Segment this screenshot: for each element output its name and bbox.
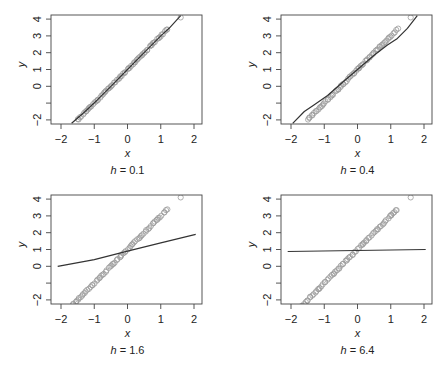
panel-caption: h = 0.1 [111,164,145,176]
panel-h-0-1: −2−1012x−201234yh = 0.1 [0,0,223,182]
plot-svg: −2−1012x−201234yh = 6.4 [230,180,446,362]
x-axis-label: x [354,327,361,339]
x-tick-label: −2 [55,133,68,145]
x-tick-label: 2 [421,133,427,145]
x-tick-label: 1 [388,313,394,325]
x-tick-label: −1 [88,133,101,145]
y-axis-label: y [15,240,27,248]
x-tick-label: 1 [388,133,394,145]
y-axis: −201234 [31,16,51,126]
x-tick-label: 2 [421,313,427,325]
x-axis: −2−1012 [285,304,427,325]
y-tick-label: 1 [261,66,273,72]
y-tick-label: 4 [261,16,273,22]
y-axis: −201234 [31,196,51,306]
panel-caption: h = 0.4 [341,164,375,176]
y-tick-label: −2 [261,294,273,307]
y-tick-label: 3 [261,33,273,39]
x-axis-label: x [124,327,131,339]
x-tick-label: 0 [354,133,360,145]
x-axis: −2−1012 [55,124,197,145]
x-tick-label: −2 [285,313,298,325]
x-tick-label: 1 [158,313,164,325]
y-tick-label: 0 [31,263,43,269]
x-tick-label: 2 [191,313,197,325]
y-axis: −201234 [261,196,281,306]
y-tick-label: 1 [31,66,43,72]
y-tick-label: −2 [31,294,43,307]
panel-h-6-4: −2−1012x−201234yh = 6.4 [230,180,446,362]
y-tick-label: 2 [261,230,273,236]
x-axis: −2−1012 [55,304,197,325]
panel-caption: h = 1.6 [111,344,145,356]
y-axis-label: y [245,240,257,248]
plot-frame [51,195,202,304]
y-tick-label: 2 [261,50,273,56]
x-tick-label: −2 [285,133,298,145]
y-axis-label: y [245,60,257,68]
y-tick-label: 1 [261,246,273,252]
y-axis: −201234 [261,16,281,126]
x-axis-label: x [124,147,131,159]
figure-grid: −2−1012x−201234yh = 0.1 −2−1012x−201234y… [0,0,446,365]
y-tick-label: 3 [31,33,43,39]
y-tick-label: 1 [31,246,43,252]
x-axis-label: x [354,147,361,159]
y-tick-label: 2 [31,230,43,236]
y-tick-label: −2 [31,114,43,127]
y-tick-label: 4 [261,196,273,202]
y-tick-label: 3 [31,213,43,219]
y-axis-label: y [15,60,27,68]
y-tick-label: 4 [31,196,43,202]
x-tick-label: −1 [318,313,331,325]
x-axis: −2−1012 [285,124,427,145]
x-tick-label: −2 [55,313,68,325]
plot-svg: −2−1012x−201234yh = 0.4 [230,0,446,182]
y-tick-label: 2 [31,50,43,56]
panel-h-0-4: −2−1012x−201234yh = 0.4 [230,0,446,182]
y-tick-label: 0 [261,83,273,89]
x-tick-label: 0 [124,133,130,145]
y-tick-label: −2 [261,114,273,127]
plot-svg: −2−1012x−201234yh = 1.6 [0,180,223,362]
y-tick-label: 0 [261,263,273,269]
x-tick-label: 1 [158,133,164,145]
plot-svg: −2−1012x−201234yh = 0.1 [0,0,223,182]
y-tick-label: 3 [261,213,273,219]
x-tick-label: −1 [88,313,101,325]
y-tick-label: 0 [31,83,43,89]
x-tick-label: −1 [318,133,331,145]
x-tick-label: 2 [191,133,197,145]
x-tick-label: 0 [124,313,130,325]
x-tick-label: 0 [354,313,360,325]
panel-h-1-6: −2−1012x−201234yh = 1.6 [0,180,223,362]
panel-caption: h = 6.4 [341,344,375,356]
y-tick-label: 4 [31,16,43,22]
